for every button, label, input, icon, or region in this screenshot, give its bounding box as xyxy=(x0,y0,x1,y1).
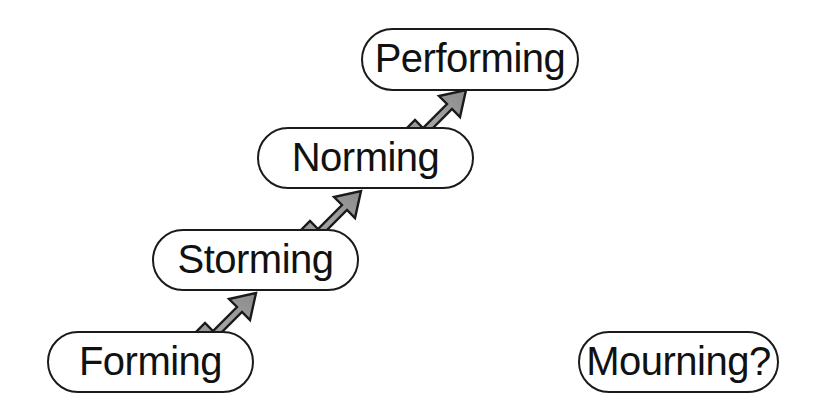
stage-label-storming: Storming xyxy=(177,239,333,282)
stage-label-performing: Performing xyxy=(375,38,566,81)
stage-label-forming: Forming xyxy=(79,341,222,384)
stage-box-performing[interactable]: Performing xyxy=(361,28,579,91)
stage-box-norming[interactable]: Norming xyxy=(257,127,474,189)
diagram-canvas: Performing Norming Storming Forming Mour… xyxy=(0,0,826,409)
stage-box-mourning[interactable]: Mourning? xyxy=(578,331,779,393)
stage-box-storming[interactable]: Storming xyxy=(152,229,359,291)
stage-label-mourning: Mourning? xyxy=(586,341,771,384)
stage-box-forming[interactable]: Forming xyxy=(47,331,254,393)
stage-label-norming: Norming xyxy=(292,137,440,180)
